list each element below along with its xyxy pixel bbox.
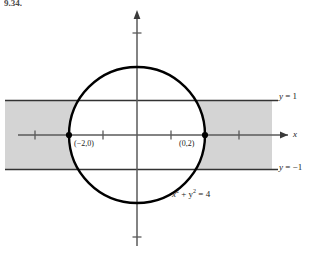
point-marker-right — [202, 132, 208, 138]
figure-container: 9.34. — [0, 0, 310, 254]
circle-equation-label: x2 + y2 = 4 — [172, 190, 210, 199]
point-label-left: (−2,0) — [74, 140, 94, 148]
x-axis-label: x — [293, 130, 297, 139]
label-line-y-equals-one-eq: = — [283, 91, 293, 101]
circle-equation-suffix: = 4 — [196, 189, 210, 199]
label-line-y-equals-one: y = 1 — [279, 92, 297, 101]
label-line-y-equals-negative-one: y = −1 — [279, 163, 302, 172]
y-axis-arrowhead — [134, 10, 141, 19]
point-label-right: (0,2) — [179, 140, 194, 148]
label-line-y-equals-negative-one-value: −1 — [293, 162, 303, 172]
point-marker-left — [66, 132, 72, 138]
label-line-y-equals-one-value: 1 — [293, 91, 298, 101]
x-axis-arrowhead — [280, 132, 288, 139]
label-line-y-equals-negative-one-eq: = — [283, 162, 293, 172]
circle-equation-mid: + y — [179, 189, 193, 199]
coordinate-plane-graphic — [0, 0, 310, 254]
y-axis-group — [133, 10, 142, 246]
